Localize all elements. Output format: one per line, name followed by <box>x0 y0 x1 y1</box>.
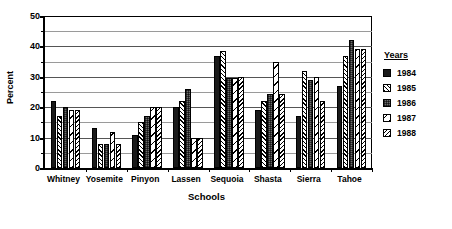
x-label-shasta: Shasta <box>247 174 288 184</box>
bar-shasta-1988 <box>279 94 285 168</box>
bar-group <box>331 16 372 168</box>
legend: Years 19841985198619871988 <box>383 50 449 141</box>
bar-group <box>168 16 209 168</box>
bar-group <box>290 16 331 168</box>
bar-sequoia-1988 <box>238 77 244 168</box>
bar-sequoia-1984 <box>214 56 220 168</box>
legend-label: 1988 <box>397 128 416 138</box>
bar-lassen-1984 <box>173 107 179 168</box>
y-tick-label: 40 <box>20 42 40 51</box>
x-label-lassen: Lassen <box>166 174 207 184</box>
bar-sierra-1984 <box>296 116 302 168</box>
x-tick-mark <box>331 168 332 172</box>
x-tick-mark <box>372 168 373 172</box>
y-tick-label: 30 <box>20 73 40 82</box>
bar-shasta-1987 <box>273 62 279 168</box>
bar-yosemite-1986 <box>104 144 110 168</box>
bar-yosemite-1987 <box>110 132 116 168</box>
plot-area <box>43 16 372 170</box>
bar-lassen-1985 <box>179 101 185 168</box>
bar-sierra-1986 <box>308 80 314 168</box>
x-label-sequoia: Sequoia <box>207 174 248 184</box>
y-tick-label: 20 <box>20 103 40 112</box>
x-label-pinyon: Pinyon <box>125 174 166 184</box>
legend-label: 1984 <box>397 68 416 78</box>
bar-pinyon-1986 <box>144 116 150 168</box>
bar-group <box>45 16 86 168</box>
bar-lassen-1988 <box>197 138 203 168</box>
bar-group <box>209 16 250 168</box>
legend-label: 1986 <box>397 98 416 108</box>
x-tick-mark <box>168 168 169 172</box>
legend-item-1986[interactable]: 1986 <box>383 96 449 109</box>
legend-title: Years <box>383 50 449 60</box>
bar-whitney-1988 <box>75 110 81 168</box>
legend-item-1985[interactable]: 1985 <box>383 81 449 94</box>
bar-pinyon-1984 <box>132 135 138 168</box>
bar-lassen-1986 <box>185 89 191 168</box>
legend-swatch-icon-1988 <box>383 129 391 137</box>
bar-tahoe-1987 <box>355 49 361 168</box>
bar-chart: Percent 01020304050 Schools Years 198419… <box>0 0 452 229</box>
bar-yosemite-1985 <box>98 144 104 168</box>
bar-lassen-1987 <box>191 138 197 168</box>
bar-yosemite-1984 <box>92 128 98 168</box>
x-axis-title: Schools <box>43 191 370 202</box>
bar-sequoia-1987 <box>232 78 238 168</box>
x-tick-mark <box>249 168 250 172</box>
bar-whitney-1987 <box>69 110 75 168</box>
bar-group <box>249 16 290 168</box>
bar-tahoe-1985 <box>343 56 349 168</box>
x-tick-mark <box>290 168 291 172</box>
legend-item-1988[interactable]: 1988 <box>383 126 449 139</box>
x-tick-mark <box>209 168 210 172</box>
legend-items: 19841985198619871988 <box>383 66 449 139</box>
legend-label: 1985 <box>397 83 416 93</box>
legend-swatch-icon-1985 <box>383 84 391 92</box>
legend-swatch-icon-1987 <box>383 114 391 122</box>
x-tick-mark <box>127 168 128 172</box>
bar-whitney-1986 <box>63 107 69 168</box>
bar-group <box>86 16 127 168</box>
y-tick-label: 50 <box>20 12 40 21</box>
bar-whitney-1984 <box>51 101 57 168</box>
legend-swatch-icon-1986 <box>383 99 391 107</box>
bar-sequoia-1986 <box>226 78 232 168</box>
bar-sierra-1985 <box>302 71 308 168</box>
bar-group <box>127 16 168 168</box>
x-label-yosemite: Yosemite <box>84 174 125 184</box>
x-label-whitney: Whitney <box>43 174 84 184</box>
y-tick-label: 10 <box>20 134 40 143</box>
legend-swatch-icon-1984 <box>383 69 391 77</box>
x-label-sierra: Sierra <box>288 174 329 184</box>
legend-label: 1987 <box>397 113 416 123</box>
y-tick-labels: 01020304050 <box>14 0 40 229</box>
bar-tahoe-1986 <box>349 40 355 168</box>
bar-sequoia-1985 <box>220 51 226 168</box>
bar-sierra-1988 <box>320 101 326 168</box>
x-label-tahoe: Tahoe <box>329 174 370 184</box>
bar-pinyon-1985 <box>138 122 144 168</box>
bar-shasta-1985 <box>261 101 267 168</box>
bar-pinyon-1987 <box>150 107 156 168</box>
bar-yosemite-1988 <box>116 144 122 168</box>
bar-whitney-1985 <box>57 116 63 168</box>
bar-tahoe-1988 <box>361 49 367 168</box>
legend-item-1984[interactable]: 1984 <box>383 66 449 79</box>
legend-item-1987[interactable]: 1987 <box>383 111 449 124</box>
y-tick-label: 0 <box>20 164 40 173</box>
x-tick-mark <box>86 168 87 172</box>
bar-pinyon-1988 <box>156 107 162 168</box>
bar-sierra-1987 <box>314 77 320 168</box>
bar-shasta-1986 <box>267 94 273 168</box>
bar-tahoe-1984 <box>337 86 343 168</box>
y-tick-mark <box>40 168 45 170</box>
bar-shasta-1984 <box>255 110 261 168</box>
